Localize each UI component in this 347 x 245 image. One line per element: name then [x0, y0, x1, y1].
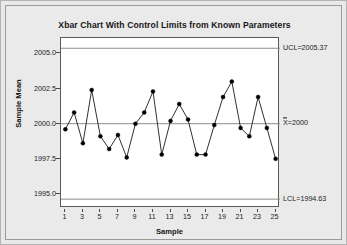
x-tick-label-0: 1: [62, 212, 66, 221]
x-tick-label-3: 7: [115, 212, 119, 221]
x-tick-label-6: 13: [166, 212, 174, 221]
x-tick-label-2: 5: [97, 212, 101, 221]
chart-outer-frame: Xbar Chart With Control Limits from Know…: [5, 5, 342, 240]
data-point-17: [204, 153, 208, 157]
plot-area: [60, 37, 279, 207]
data-point-24: [265, 126, 269, 130]
x-axis-tick-labels: 135791113151719212325: [60, 209, 281, 221]
data-point-15: [186, 117, 190, 121]
data-point-6: [107, 147, 111, 151]
x-tick-label-8: 17: [201, 212, 209, 221]
y-tick-label-3: 2002.5: [34, 83, 56, 92]
data-point-10: [142, 110, 146, 114]
x-axis-title: Sample: [60, 227, 279, 236]
center-line-annotation: X=2000: [283, 119, 308, 126]
y-tick-label-4: 2005.0: [34, 48, 56, 57]
y-axis-tick-labels: 1995.01997.52000.02002.52005.0: [6, 37, 56, 207]
y-tick-label-2: 2000.0: [34, 118, 56, 127]
data-point-13: [169, 119, 173, 123]
x-tick-label-7: 15: [183, 212, 191, 221]
center-line-value: =2000: [288, 118, 308, 127]
chart-plot-svg: [61, 38, 280, 208]
data-point-9: [133, 122, 137, 126]
lcl-annotation: LCL=1994.63: [283, 194, 326, 203]
data-point-18: [212, 123, 216, 127]
data-point-3: [81, 141, 85, 145]
data-point-25: [274, 157, 278, 161]
data-point-12: [160, 153, 164, 157]
x-bar-symbol: X: [283, 119, 288, 126]
x-tick-label-4: 9: [132, 212, 136, 221]
data-point-4: [90, 88, 94, 92]
x-tick-label-10: 21: [236, 212, 244, 221]
data-point-7: [116, 133, 120, 137]
x-tick-label-5: 11: [148, 212, 155, 221]
x-tick-label-12: 25: [271, 212, 279, 221]
data-point-16: [195, 153, 199, 157]
data-point-8: [125, 155, 129, 159]
data-point-20: [230, 80, 234, 84]
x-tick-label-11: 23: [253, 212, 261, 221]
ucl-annotation: UCL=2005.37: [283, 43, 328, 52]
data-point-5: [98, 134, 102, 138]
data-point-23: [256, 95, 260, 99]
y-tick-label-0: 1995.0: [34, 188, 56, 197]
x-tick-label-1: 3: [80, 212, 84, 221]
chart-window: Xbar Chart With Control Limits from Know…: [0, 0, 347, 245]
x-bar-overline: [283, 118, 287, 119]
data-point-19: [221, 95, 225, 99]
x-tick-label-9: 19: [218, 212, 226, 221]
y-tick-label-1: 1997.5: [34, 153, 56, 162]
chart-title: Xbar Chart With Control Limits from Know…: [6, 20, 343, 30]
x-bar-letter: X: [283, 118, 288, 127]
data-point-21: [239, 126, 243, 130]
data-point-1: [63, 127, 67, 131]
data-point-11: [151, 89, 155, 93]
data-point-22: [247, 134, 251, 138]
data-point-2: [72, 110, 76, 114]
data-point-14: [177, 102, 181, 106]
